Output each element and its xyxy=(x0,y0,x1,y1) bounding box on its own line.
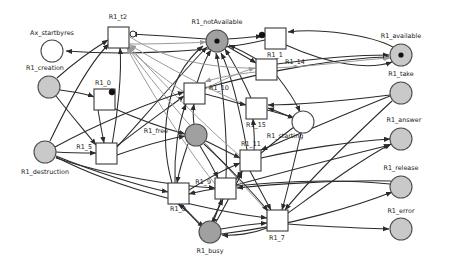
place-label-R1_available: R1_available xyxy=(381,32,422,40)
transition-label-R1_14: R1_14 xyxy=(285,58,305,66)
place-R1_free[interactable] xyxy=(185,124,207,146)
place-R1_starting[interactable] xyxy=(292,111,314,133)
transition-label-R1_11: R1_11 xyxy=(241,140,261,148)
arc-R1_free-to-R1_8 xyxy=(177,144,188,183)
arc-R1_0-to-R1_5 xyxy=(98,110,104,143)
arc-R1_available-to-R1_1 xyxy=(288,31,393,47)
arc-R1_take-to-R1_11 xyxy=(261,96,390,150)
place-Ax_startbyres[interactable] xyxy=(41,40,63,62)
transition-label-R1_0: R1_0 xyxy=(95,79,111,87)
transition-R1_10[interactable] xyxy=(184,83,205,104)
place-R1_destruction[interactable] xyxy=(34,141,56,163)
transition-R1_1[interactable] xyxy=(265,28,286,49)
place-label-R1_starting: R1_starting xyxy=(267,132,303,140)
arc-R1_14-to-R1_starting xyxy=(277,76,300,112)
place-label-R1_busy: R1_busy xyxy=(197,247,224,255)
place-R1_error[interactable] xyxy=(390,218,412,240)
place-label-R1_destruction: R1_destruction xyxy=(21,168,69,176)
place-R1_creation[interactable] xyxy=(38,76,60,98)
place-R1_release[interactable] xyxy=(390,176,412,198)
petri-net-canvas: Ax_startbyresR1_creationR1_destructionR1… xyxy=(0,0,449,267)
arc-R1_starting-to-R1_15 xyxy=(268,108,293,118)
transition-R1_8[interactable] xyxy=(168,183,189,204)
arc-R1_free-to-R1_9 xyxy=(200,146,218,178)
place-label-Ax_startbyres: Ax_startbyres xyxy=(30,29,74,37)
arc-R1_8-to-R1_10 xyxy=(175,104,186,183)
place-label-R1_take: R1_take xyxy=(388,70,414,78)
arc-R1_8-to-R1_notAvailable xyxy=(166,46,203,183)
transition-label-R1_15: R1_15 xyxy=(246,121,266,129)
arc-R1_14-to-R1_notAvailable xyxy=(229,45,258,60)
transition-label-R1_8: R1_8 xyxy=(170,205,186,213)
place-label-R1_notAvailable: R1_notAvailable xyxy=(191,18,242,26)
arc-R1_creation-to-R1_t2 xyxy=(57,40,108,78)
place-label-R1_error: R1_error xyxy=(387,207,415,215)
petri-net-diagram: Ax_startbyresR1_creationR1_destructionR1… xyxy=(0,0,449,267)
arc-R1_creation-to-R1_5 xyxy=(56,96,96,145)
token-R1_available xyxy=(398,52,403,57)
arc-R1_7-to-R1_answer xyxy=(288,144,391,213)
arc-dot-icon-R1_1 xyxy=(259,32,265,38)
arc-R1_creation-to-R1_0 xyxy=(60,90,94,97)
transition-label-R1_t2: R1_t2 xyxy=(109,13,127,21)
arc-R1_notAvailable-to-R1_t2 xyxy=(131,34,206,39)
place-label-R1_release: R1_release xyxy=(383,164,418,172)
arc-R1_5-to-R1_free xyxy=(117,136,185,155)
transition-R1_t2[interactable] xyxy=(108,27,129,48)
arc-R1_notAvailable-to-R1_1 xyxy=(228,36,262,39)
arc-R1_destruction-to-R1_5 xyxy=(56,152,96,153)
place-label-R1_answer: R1_answer xyxy=(387,116,422,124)
transition-R1_14[interactable] xyxy=(256,59,277,80)
transition-label-R1_10: R1_10 xyxy=(209,84,229,92)
arc-layer xyxy=(50,31,393,235)
transition-R1_9[interactable] xyxy=(215,178,236,199)
transition-R1_11[interactable] xyxy=(240,150,261,171)
transition-R1_15[interactable] xyxy=(246,98,267,119)
place-R1_busy[interactable] xyxy=(199,221,221,243)
arc-dot-icon-R1_0 xyxy=(109,89,115,95)
arc-R1_7-to-R1_busy xyxy=(222,228,267,235)
place-label-R1_creation: R1_creation xyxy=(26,64,64,72)
transition-R1_5[interactable] xyxy=(96,143,117,164)
token-R1_notAvailable xyxy=(214,38,219,43)
transition-label-R1_7: R1_7 xyxy=(269,234,285,242)
place-R1_take[interactable] xyxy=(390,82,412,104)
arc-R1_9-to-R1_notAvailable xyxy=(216,53,226,178)
transition-label-R1_1: R1_1 xyxy=(267,51,283,59)
arc-R1_7-to-R1_error xyxy=(288,224,389,229)
transition-R1_7[interactable] xyxy=(267,210,288,231)
transition-label-R1_5: R1_5 xyxy=(76,143,92,151)
place-label-R1_free: R1_free xyxy=(144,127,168,135)
transition-label-R1_9: R1_9 xyxy=(195,178,211,186)
place-R1_answer[interactable] xyxy=(390,128,412,150)
inhibitor-circle-icon-R1_t2 xyxy=(130,31,136,37)
